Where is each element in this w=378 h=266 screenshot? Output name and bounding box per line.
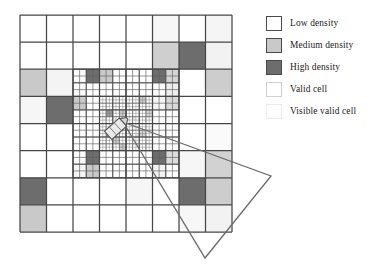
legend-item-medium-density: Medium density: [266, 34, 378, 56]
legend-item-visible-valid-cell: Visible valid cell: [266, 100, 378, 122]
legend-label-low-density: Low density: [290, 18, 338, 28]
legend-item-valid-cell: Valid cell: [266, 78, 378, 100]
legend-label-valid-cell: Valid cell: [290, 84, 327, 94]
legend-item-low-density: Low density: [266, 12, 378, 34]
view-frustum: [123, 122, 271, 258]
low-density-swatch: [266, 16, 282, 31]
legend: Low density Medium density High density …: [266, 12, 378, 122]
legend-label-medium-density: Medium density: [290, 40, 353, 50]
valid-cell-swatch: [266, 82, 282, 97]
legend-item-high-density: High density: [266, 56, 378, 78]
high-density-swatch: [266, 60, 282, 75]
visible-valid-cell-swatch: [266, 104, 282, 119]
figure-root: Low density Medium density High density …: [0, 0, 378, 266]
legend-label-high-density: High density: [290, 62, 340, 72]
medium-density-swatch: [266, 38, 282, 53]
legend-label-visible-valid-cell: Visible valid cell: [290, 106, 356, 116]
camera-icon: [104, 114, 130, 139]
